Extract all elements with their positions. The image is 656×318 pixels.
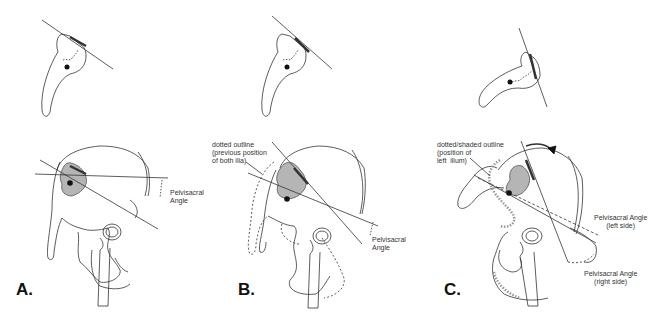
panel-label-c: C. [444, 280, 461, 300]
annotation-b-pelvisacral-angle: Pelvisacral Angle [372, 236, 406, 252]
annotation-c-pelvisacral-angle-right: Pelvisacral Angle (right side) [584, 270, 637, 286]
panel-label-b: B. [238, 280, 255, 300]
annotation-c-pelvisacral-angle-left: Pelvisacral Angle (left side) [594, 214, 647, 230]
annotation-b-dotted-outline: dotted outline (previous position of bot… [212, 141, 267, 165]
panel-b-sacrum-icon [262, 16, 332, 116]
panel-c-sacrum-icon [479, 28, 547, 107]
annotation-a-pelvisacral-angle: Pelvisacral Angle [170, 189, 204, 205]
panel-b-pelvis-icon [246, 142, 378, 308]
pelvis-diagram-canvas [0, 0, 656, 318]
panel-a-sacrum-icon [42, 20, 113, 116]
panel-c-pelvis-icon [458, 141, 600, 306]
panel-label-a: A. [16, 280, 33, 300]
panel-a-pelvis-icon [35, 146, 168, 306]
annotation-c-dotted-shaded-outline: dotted/shaded outline (position of left … [437, 141, 504, 165]
